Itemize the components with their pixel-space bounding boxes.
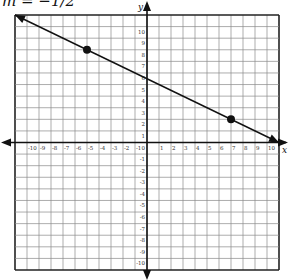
x-tick-label: -3 — [112, 145, 118, 151]
x-tick-label: -8 — [52, 145, 58, 151]
x-tick-label: 4 — [196, 145, 200, 151]
y-axis-bottom-arrow — [143, 270, 151, 280]
y-tick-label: -8 — [140, 237, 146, 243]
x-tick-label: 2 — [172, 145, 176, 151]
line-arrow-start — [15, 15, 26, 23]
x-tick-label: -6 — [76, 145, 82, 151]
y-axis-label: y — [137, 2, 144, 12]
y-tick-label: 3 — [142, 110, 146, 116]
x-axis-left-arrow — [1, 139, 11, 147]
x-tick-label: 5 — [208, 145, 212, 151]
x-tick-label: 6 — [220, 145, 224, 151]
y-tick-label: -4 — [140, 191, 146, 197]
x-tick-label: 10 — [268, 145, 275, 151]
y-tick-label: -9 — [140, 249, 146, 255]
y-tick-label: 4 — [142, 98, 146, 104]
y-axis-top-arrow — [143, 1, 151, 11]
x-tick-label: -2 — [124, 145, 129, 151]
y-tick-label: -7 — [140, 226, 146, 232]
x-tick-label: 1 — [160, 145, 164, 151]
y-tick-label: 10 — [138, 29, 145, 35]
y-tick-label: 7 — [142, 63, 146, 69]
y-tick-label: -10 — [136, 260, 145, 266]
x-tick-label: 7 — [232, 145, 236, 151]
x-tick-label: -5 — [88, 145, 94, 151]
x-tick-label: -4 — [100, 145, 106, 151]
y-tick-label: -1 — [140, 156, 145, 162]
y-tick-label: 5 — [142, 87, 146, 93]
x-tick-label: 9 — [256, 145, 260, 151]
y-tick-label: -3 — [140, 179, 146, 185]
y-tick-label: 0 — [142, 145, 146, 151]
y-tick-label: -6 — [140, 214, 146, 220]
x-tick-label: 8 — [244, 145, 248, 151]
data-point — [227, 115, 235, 123]
y-tick-label: 8 — [142, 52, 146, 58]
line-arrow-end — [268, 135, 279, 143]
y-tick-label: -5 — [140, 202, 146, 208]
y-tick-label: 9 — [142, 40, 146, 46]
x-tick-label: -10 — [28, 145, 37, 151]
x-axis-label: x — [282, 145, 287, 155]
tick-labels: -10-9-8-7-6-5-4-3-2-11234567891010987654… — [28, 29, 275, 267]
y-tick-label: -2 — [140, 168, 145, 174]
x-tick-label: 3 — [184, 145, 188, 151]
data-point — [83, 46, 91, 54]
y-tick-label: 1 — [142, 133, 146, 139]
y-tick-label: 2 — [142, 121, 146, 127]
x-tick-label: -7 — [64, 145, 70, 151]
coordinate-plane: -10-9-8-7-6-5-4-3-2-11234567891010987654… — [0, 0, 288, 280]
x-tick-label: -9 — [40, 145, 46, 151]
